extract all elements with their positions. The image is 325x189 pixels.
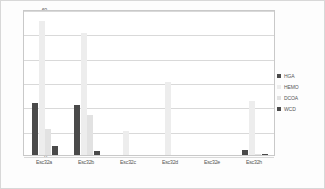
legend-item[interactable]: HEMO [277, 81, 321, 92]
bar [262, 154, 268, 155]
x-tick-label: Esc32a [36, 159, 52, 165]
legend-swatch-icon [277, 74, 281, 78]
legend-label: WCD [284, 106, 296, 112]
gridline [24, 157, 274, 158]
legend-item[interactable]: WCD [277, 103, 321, 114]
bar [255, 154, 261, 155]
bar-group [116, 11, 142, 155]
legend-label: DCOA [284, 95, 298, 101]
x-tick-label: Esc32c [120, 159, 136, 165]
bar-group [200, 11, 226, 155]
legend-swatch-icon [277, 107, 281, 111]
bar [242, 150, 248, 155]
bar [87, 115, 93, 155]
bar [52, 146, 58, 155]
bar-group [158, 11, 184, 155]
bar-series-container [24, 11, 274, 155]
bar [39, 21, 45, 155]
legend-item[interactable]: DCOA [277, 92, 321, 103]
bar-group [32, 11, 58, 155]
legend-label: HEMO [284, 84, 299, 90]
x-tick-label: Esc32h [246, 159, 262, 165]
bar-group [242, 11, 268, 155]
x-tick-label: Esc32b [78, 159, 94, 165]
bar [81, 33, 87, 155]
bar [32, 103, 38, 155]
bar [94, 151, 100, 155]
bar [45, 129, 51, 155]
chart-figure: 0102030405060 Esc32aEsc32bEsc32cEsc32dEs… [0, 0, 325, 189]
legend-label: HGA [284, 73, 295, 79]
legend-item[interactable]: HGA [277, 70, 321, 81]
bar [249, 101, 255, 155]
legend-swatch-icon [277, 85, 281, 89]
chart-legend: HGAHEMODCOAWCD [277, 70, 321, 114]
bar-group [74, 11, 100, 155]
x-tick-label: Esc32e [204, 159, 220, 165]
bar [74, 105, 80, 155]
bar [123, 131, 129, 155]
legend-swatch-icon [277, 96, 281, 100]
plot-area [23, 10, 275, 156]
bar [165, 82, 171, 155]
x-tick-label: Esc32d [162, 159, 178, 165]
